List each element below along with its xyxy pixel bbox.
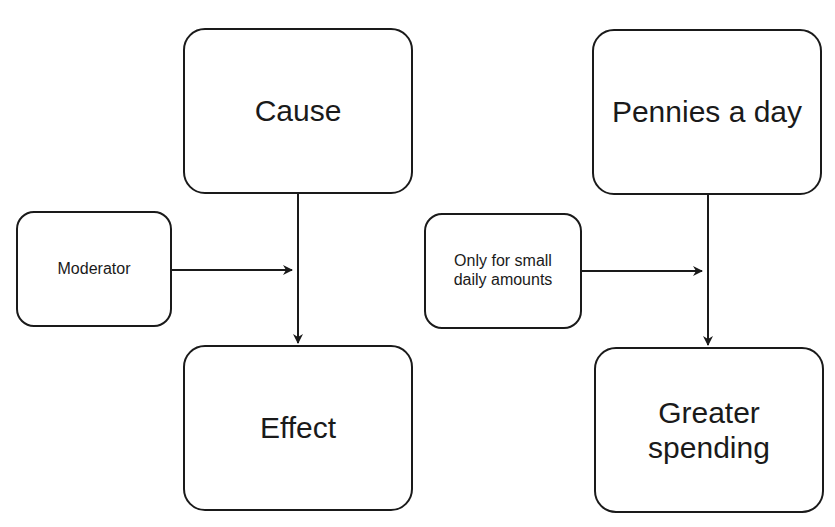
moderator-box: Moderator xyxy=(16,211,172,327)
cause-label: Cause xyxy=(255,93,342,128)
effect-label: Effect xyxy=(260,410,336,445)
pennies-box: Pennies a day xyxy=(592,29,822,195)
condition-label: Only for small daily amounts xyxy=(440,252,566,290)
cause-box: Cause xyxy=(183,28,413,194)
pennies-label: Pennies a day xyxy=(612,94,802,129)
spending-label: Greater spending xyxy=(636,395,782,466)
condition-box: Only for small daily amounts xyxy=(424,213,582,329)
moderator-label: Moderator xyxy=(58,260,131,279)
spending-box: Greater spending xyxy=(594,347,824,513)
effect-box: Effect xyxy=(183,345,413,511)
